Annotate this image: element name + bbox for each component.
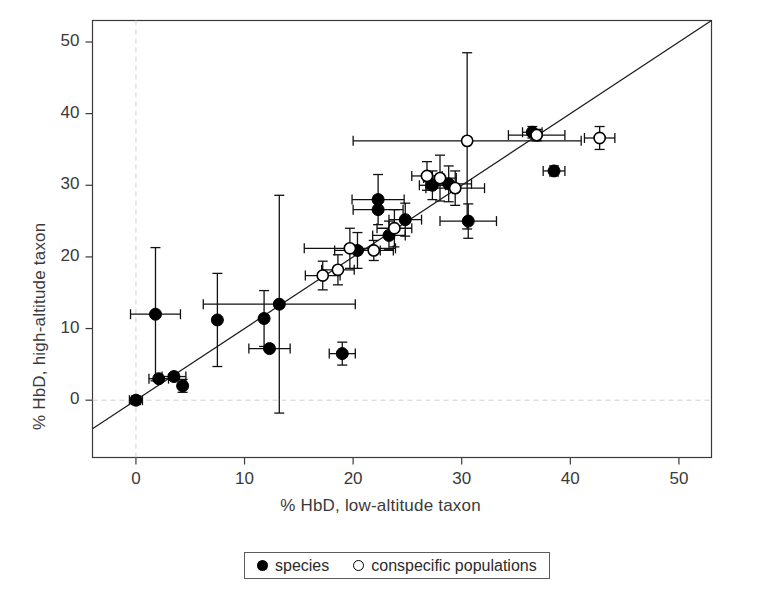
y-tick-label: 0 <box>40 389 80 409</box>
data-point-species <box>149 308 161 320</box>
data-point-conspecific <box>389 223 400 234</box>
data-point-conspecific <box>434 173 445 184</box>
legend-label-species: species <box>275 557 329 575</box>
x-tick-label: 30 <box>442 469 482 489</box>
data-point-conspecific <box>594 132 605 143</box>
x-tick-label: 20 <box>333 469 373 489</box>
legend-label-conspecific-populations: conspecific populations <box>371 557 536 575</box>
data-point-species <box>548 165 560 177</box>
y-tick-label: 40 <box>40 103 80 123</box>
data-point-species <box>211 314 223 326</box>
data-point-conspecific <box>368 245 379 256</box>
x-axis-title: % HbD, low-altitude taxon <box>0 496 761 516</box>
data-point-species <box>130 394 142 406</box>
data-point-conspecific <box>450 183 461 194</box>
x-tick-label: 0 <box>116 469 156 489</box>
data-point-conspecific <box>421 170 432 181</box>
data-point-conspecific <box>462 135 473 146</box>
data-point-species <box>462 215 474 227</box>
data-point-conspecific <box>344 243 355 254</box>
data-point-species <box>273 298 285 310</box>
data-point-species <box>153 373 165 385</box>
y-tick-label: 20 <box>40 246 80 266</box>
data-point-species <box>264 343 276 355</box>
axis-ticks <box>86 42 679 465</box>
x-tick-label: 40 <box>550 469 590 489</box>
x-tick-label: 50 <box>659 469 699 489</box>
data-point-species <box>336 348 348 360</box>
legend-filled-circle-icon <box>257 560 268 571</box>
data-point-species <box>372 204 384 216</box>
data-point-conspecific <box>317 270 328 281</box>
y-tick-label: 10 <box>40 318 80 338</box>
data-markers <box>130 126 605 406</box>
legend: species conspecific populations <box>244 552 550 579</box>
x-tick-label: 10 <box>225 469 265 489</box>
legend-open-circle-icon <box>353 560 364 571</box>
data-point-species <box>168 371 180 383</box>
scatter-plot-figure: % HbD, low-altitude taxon % HbD, high-al… <box>0 0 761 604</box>
data-point-species <box>177 380 189 392</box>
y-tick-label: 50 <box>40 31 80 51</box>
y-tick-label: 30 <box>40 174 80 194</box>
data-point-species <box>258 313 270 325</box>
data-point-species <box>399 214 411 226</box>
data-point-conspecific <box>332 264 343 275</box>
data-point-conspecific <box>531 130 542 141</box>
error-bars <box>129 53 614 413</box>
